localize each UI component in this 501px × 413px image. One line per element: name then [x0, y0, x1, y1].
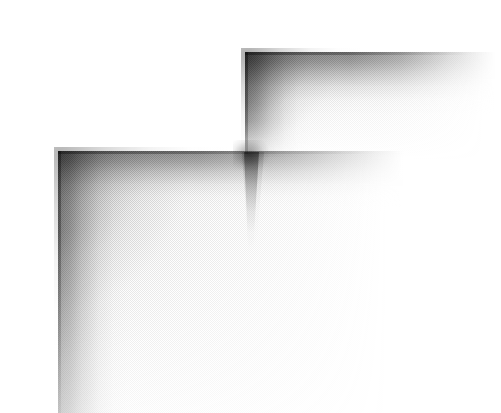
- lower-shadow-left-edge-line: [58, 151, 61, 413]
- upper-shadow-left-edge-line: [245, 52, 248, 154]
- lower-shadow-top-edge-line: [58, 151, 400, 154]
- halftone-grain-lower: [58, 151, 403, 413]
- scanned-page-canvas: Blank scanned page showing two overlappi…: [0, 0, 501, 413]
- upper-shadow-top-band: [245, 52, 495, 114]
- lower-shadow-left-band: [58, 151, 128, 413]
- lower-shadow-top-band: [58, 151, 403, 207]
- lower-shadow-corner-pool: [54, 147, 229, 357]
- shadow-crossing-tail: [243, 152, 259, 252]
- halftone-grain-upper: [245, 52, 495, 160]
- upper-shadow-corner-pool: [241, 48, 361, 163]
- shadow-tail-halo: [236, 152, 268, 248]
- upper-shadow-top-edge-line: [245, 52, 493, 55]
- shadow-crossing-knot: [233, 140, 279, 180]
- upper-shadow-left-band: [245, 52, 309, 157]
